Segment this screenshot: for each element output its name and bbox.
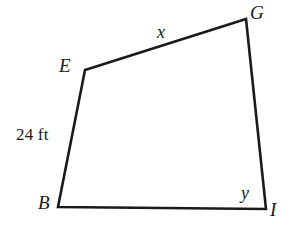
vertex-label-e: E [59, 56, 71, 75]
geometry-figure: G E B I x y 24 ft [0, 0, 292, 227]
vertex-label-g: G [250, 3, 264, 22]
side-label-x: x [157, 23, 165, 41]
side-measure-label-24ft: 24 ft [16, 126, 49, 143]
vertex-label-b: B [38, 193, 50, 212]
quadrilateral-outline [58, 19, 266, 209]
angle-label-y: y [241, 184, 249, 202]
vertex-label-i: I [270, 200, 276, 219]
